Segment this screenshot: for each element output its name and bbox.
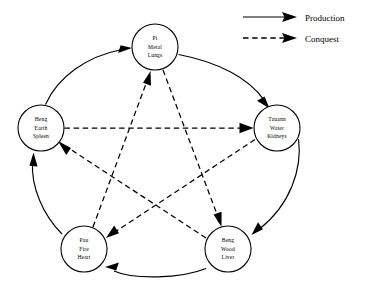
arrow-head-icon bbox=[143, 71, 151, 86]
diagram-canvas: Pi Metal Lungs Tzuann Water Kidneys Beng… bbox=[0, 0, 367, 289]
legend-item-conquest: Conquest bbox=[243, 33, 340, 44]
arrow-head-icon bbox=[106, 226, 119, 239]
legend: Production Conquest bbox=[243, 12, 345, 44]
node-label-line3: Heart bbox=[77, 254, 90, 260]
conquest-line-path bbox=[93, 81, 147, 227]
node-wood[interactable]: Beng Wood Liver bbox=[205, 226, 251, 272]
legend-item-production: Production bbox=[243, 12, 345, 23]
production-arc-path bbox=[260, 139, 300, 229]
conquest-edge-wood-to-earth bbox=[58, 141, 206, 238]
node-label-line1: Beng bbox=[222, 237, 234, 243]
node-fire[interactable]: Pau Fire Heart bbox=[61, 226, 107, 272]
node-label-line3: Liver bbox=[222, 254, 235, 260]
node-label-line2: Water bbox=[270, 125, 284, 131]
conquest-edge-earth-to-water bbox=[65, 123, 254, 133]
node-label-line3: Spleen bbox=[33, 133, 49, 139]
node-label-line2: Wood bbox=[221, 246, 235, 252]
arrow-head-icon bbox=[240, 123, 254, 133]
node-water[interactable]: Tzuann Water Kidneys bbox=[254, 105, 300, 151]
wuxing-diagram: Pi Metal Lungs Tzuann Water Kidneys Beng… bbox=[0, 0, 367, 289]
node-metal[interactable]: Pi Metal Lungs bbox=[132, 24, 178, 70]
arrow-head-icon bbox=[58, 141, 71, 155]
conquest-edge-fire-to-metal bbox=[93, 71, 151, 227]
production-edge-wood-to-fire bbox=[105, 263, 206, 277]
production-arc-path bbox=[114, 269, 206, 277]
conquest-line-path bbox=[115, 140, 255, 233]
node-label-line3: Lungs bbox=[148, 52, 163, 58]
node-label-line2: Metal bbox=[148, 44, 162, 50]
conquest-edge-metal-to-wood bbox=[163, 70, 222, 227]
nodes-group: Pi Metal Lungs Tzuann Water Kidneys Beng… bbox=[18, 24, 300, 272]
production-edge-fire-to-earth bbox=[29, 153, 62, 235]
production-edge-metal-to-water bbox=[179, 55, 270, 109]
node-label-line1: Pi bbox=[153, 35, 158, 41]
conquest-edges-group bbox=[58, 70, 255, 238]
production-edge-water-to-wood bbox=[252, 139, 300, 235]
node-label-line2: Earth bbox=[35, 125, 48, 131]
legend-label-production: Production bbox=[305, 13, 345, 23]
node-label-line3: Kidneys bbox=[267, 133, 287, 139]
arrow-head-icon bbox=[214, 212, 222, 227]
node-label-line1: Pau bbox=[80, 237, 89, 243]
node-label-line2: Fire bbox=[79, 246, 89, 252]
arrow-head-icon bbox=[105, 263, 119, 271]
node-earth[interactable]: Heng Earth Spleen bbox=[18, 105, 64, 151]
legend-label-conquest: Conquest bbox=[305, 34, 340, 44]
production-arc-path bbox=[179, 55, 265, 101]
production-arc-path bbox=[46, 50, 123, 105]
arrow-head-icon bbox=[118, 45, 132, 53]
arrow-head-icon bbox=[252, 222, 264, 235]
production-edge-earth-to-metal bbox=[46, 45, 133, 104]
conquest-edge-water-to-fire bbox=[106, 140, 255, 239]
node-label-line1: Heng bbox=[35, 116, 48, 122]
node-label-line1: Tzuann bbox=[268, 116, 286, 122]
production-arc-path bbox=[32, 162, 62, 234]
conquest-line-path bbox=[67, 147, 206, 238]
arrow-head-icon bbox=[29, 153, 37, 167]
